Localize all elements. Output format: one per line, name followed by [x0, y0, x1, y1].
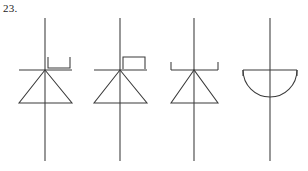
symbol-3-schottky-diode-both-ends-up [171, 18, 218, 161]
figure-root: 23. [0, 0, 308, 171]
symbol-1-schottky-diode-right-hook [19, 18, 72, 161]
symbol-canvas [0, 0, 308, 171]
symbol-2-up-square-bracket-marking [123, 57, 145, 69]
symbol-1-down-u-bracket-marking [48, 57, 70, 68]
symbol-4-semicircle-diode [243, 18, 297, 161]
symbol-2-schottky-diode-up-bracket-right [94, 18, 147, 161]
